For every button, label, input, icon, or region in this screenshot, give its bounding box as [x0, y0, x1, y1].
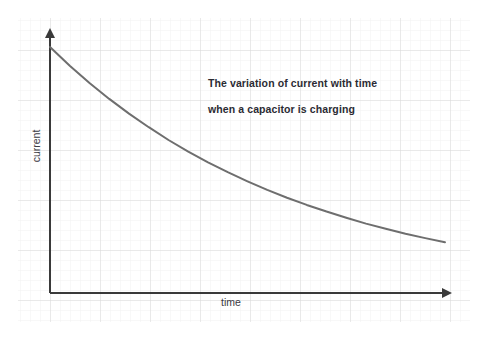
chart-title-line-1: The variation of current with time	[208, 77, 448, 90]
chart-title: The variation of current with time when …	[208, 64, 448, 129]
plot-layer	[0, 0, 498, 339]
chart-title-line-2: when a capacitor is charging	[208, 103, 448, 116]
x-axis-label: time	[196, 296, 266, 308]
figure-canvas: The variation of current with time when …	[0, 0, 498, 339]
y-axis-label: current	[30, 116, 42, 176]
